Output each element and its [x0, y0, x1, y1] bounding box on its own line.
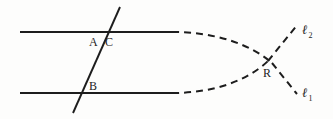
label-ray-l2-subscript: 2 [307, 31, 312, 40]
transversal-line [73, 7, 120, 113]
label-point-b: B [89, 80, 97, 92]
label-ray-l2: ℓ2 [302, 23, 312, 40]
geometry-canvas [0, 0, 333, 119]
label-point-a: A [89, 36, 98, 48]
top-dashed-curve [172, 32, 272, 63]
lower-right-dashed-ray [272, 63, 297, 94]
label-point-r: R [263, 67, 271, 79]
upper-right-dashed-ray [268, 24, 298, 61]
label-point-c: C [105, 36, 113, 48]
label-ray-l1: ℓ1 [302, 86, 312, 103]
geometry-figure: A C B R ℓ2 ℓ1 [0, 0, 333, 119]
bottom-dashed-curve [172, 61, 268, 93]
label-ray-l1-subscript: 1 [307, 94, 312, 103]
